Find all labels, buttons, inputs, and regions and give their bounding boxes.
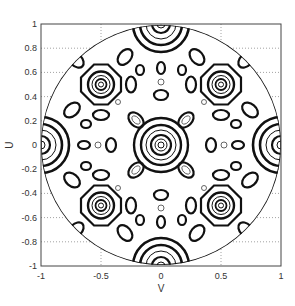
svg-text:-0.2: -0.2	[21, 164, 37, 174]
x-tick-labels: -1 -0.5 0 0.5 1	[37, 271, 284, 281]
svg-text:-0.5: -0.5	[93, 271, 109, 281]
svg-text:0: 0	[32, 140, 37, 150]
svg-text:-0.4: -0.4	[21, 188, 37, 198]
svg-text:0.5: 0.5	[215, 271, 228, 281]
svg-text:-1: -1	[29, 261, 37, 271]
svg-text:1: 1	[32, 19, 37, 29]
y-axis-label: U	[4, 141, 15, 148]
svg-text:0.6: 0.6	[24, 67, 37, 77]
y-tick-labels: 1 0.8 0.6 0.4 0.2 0 -0.2 -0.4 -0.6 -0.8 …	[21, 19, 37, 271]
svg-text:0: 0	[158, 271, 163, 281]
svg-text:0.4: 0.4	[24, 92, 37, 102]
svg-text:-1: -1	[37, 271, 45, 281]
x-axis-label: V	[158, 283, 165, 294]
svg-text:0.8: 0.8	[24, 43, 37, 53]
svg-text:-0.8: -0.8	[21, 237, 37, 247]
svg-text:1: 1	[278, 271, 283, 281]
contour-pattern	[13, 0, 295, 294]
svg-text:-0.6: -0.6	[21, 213, 37, 223]
contour-figure: 1 0.8 0.6 0.4 0.2 0 -0.2 -0.4 -0.6 -0.8 …	[0, 0, 295, 306]
svg-text:0.2: 0.2	[24, 116, 37, 126]
